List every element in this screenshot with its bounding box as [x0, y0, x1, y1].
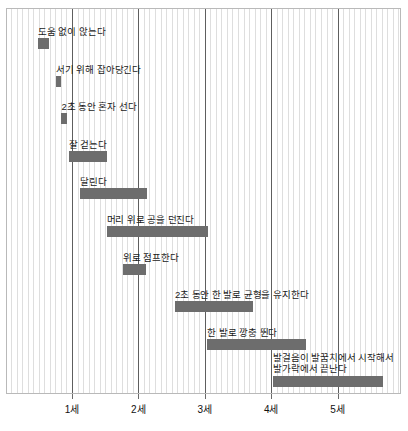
bar-label-line: 도움 없이 앉는다: [38, 26, 105, 37]
gridline-minor: [33, 9, 34, 393]
gridline-minor: [360, 9, 361, 393]
gridline-minor: [172, 9, 173, 393]
gridline-minor: [349, 9, 350, 393]
gridline-minor: [327, 9, 328, 393]
bar: [56, 76, 61, 87]
bar-label: 위로 점프한다: [123, 252, 179, 263]
chart-plot-area: 도움 없이 앉는다서기 위해 잡아당긴다2초 동안 혼자 선다잘 걷는다달린다머…: [6, 8, 401, 394]
bar-label-line: 2초 동안 혼자 선다: [61, 101, 136, 112]
bar-label-line: 잘 걷는다: [69, 139, 107, 150]
bar-label: 발걸음이 발꿈치에서 시작해서발가락에서 끝난다: [273, 352, 401, 374]
gridline-minor: [194, 9, 195, 393]
axis-tick-label: 4세: [264, 401, 279, 416]
gridline-minor: [22, 9, 23, 393]
axis-tick: [271, 394, 272, 399]
bar-label: 서기 위해 잡아당긴다: [56, 64, 141, 75]
gridline-minor: [199, 9, 200, 393]
gridline-minor: [382, 9, 383, 393]
gridline-minor: [177, 9, 178, 393]
bar-label-line: 서기 위해 잡아당긴다: [56, 64, 141, 75]
bar: [175, 301, 253, 312]
gridline-minor: [354, 9, 355, 393]
bar-label-line: 한 발로 깡충 뛴다: [207, 327, 277, 338]
bar-label: 도움 없이 앉는다: [38, 26, 105, 37]
gridline-minor: [17, 9, 18, 393]
x-axis: 1세2세3세4세5세: [6, 394, 401, 431]
axis-tick: [138, 394, 139, 399]
gridline-minor: [28, 9, 29, 393]
bar-label-line: 위로 점프한다: [123, 252, 179, 263]
bar-label: 잘 걷는다: [69, 139, 107, 150]
bar-label: 머리 위로 공을 던진다: [107, 214, 195, 225]
bar: [69, 151, 108, 162]
gridline-minor: [293, 9, 294, 393]
bar: [38, 38, 49, 49]
gridline-minor: [188, 9, 189, 393]
bar: [61, 113, 66, 124]
gridline-minor: [144, 9, 145, 393]
gridline-minor: [44, 9, 45, 393]
bar: [107, 226, 209, 237]
gridline-minor: [166, 9, 167, 393]
gridline-minor: [11, 9, 12, 393]
bar: [80, 188, 147, 199]
gridline-minor: [304, 9, 305, 393]
gridline-minor: [39, 9, 40, 393]
gridline-minor: [183, 9, 184, 393]
axis-tick-label: 1세: [65, 401, 80, 416]
milestone-timeline-chart: 도움 없이 앉는다서기 위해 잡아당긴다2초 동안 혼자 선다잘 걷는다달린다머…: [0, 0, 408, 431]
bar-label-line: 2초 동안 한 발로 균형을 유지한다: [175, 289, 309, 300]
axis-tick-label: 5세: [330, 401, 345, 416]
gridline-major: [338, 9, 339, 393]
axis-tick: [72, 394, 73, 399]
gridline-minor: [398, 9, 399, 393]
gridline-minor: [282, 9, 283, 393]
gridline-minor: [321, 9, 322, 393]
gridline-minor: [50, 9, 51, 393]
gridline-minor: [315, 9, 316, 393]
gridline-minor: [376, 9, 377, 393]
gridline-minor: [310, 9, 311, 393]
gridline-minor: [371, 9, 372, 393]
axis-tick: [338, 394, 339, 399]
gridline-minor: [365, 9, 366, 393]
axis-tick: [205, 394, 206, 399]
bar-label: 한 발로 깡충 뛴다: [207, 327, 277, 338]
bar-label: 달린다: [80, 176, 107, 187]
gridline-minor: [332, 9, 333, 393]
bar-label-line: 머리 위로 공을 던진다: [107, 214, 195, 225]
gridline-minor: [149, 9, 150, 393]
axis-tick-label: 2세: [131, 401, 146, 416]
gridline-minor: [155, 9, 156, 393]
bar-label: 2초 동안 혼자 선다: [61, 101, 136, 112]
gridline-major: [205, 9, 206, 393]
bar: [207, 339, 305, 350]
gridline-minor: [288, 9, 289, 393]
gridline-minor: [343, 9, 344, 393]
bar-label-line: 발걸음이 발꿈치에서 시작해서: [273, 352, 401, 363]
bar: [123, 264, 146, 275]
axis-tick-label: 3세: [198, 401, 213, 416]
gridline-minor: [299, 9, 300, 393]
gridline-minor: [387, 9, 388, 393]
bar-label-line: 발가락에서 끝난다: [273, 363, 401, 374]
bar: [273, 376, 383, 387]
bar-label-line: 달린다: [80, 176, 107, 187]
gridline-minor: [161, 9, 162, 393]
gridline-minor: [393, 9, 394, 393]
bar-label: 2초 동안 한 발로 균형을 유지한다: [175, 289, 309, 300]
